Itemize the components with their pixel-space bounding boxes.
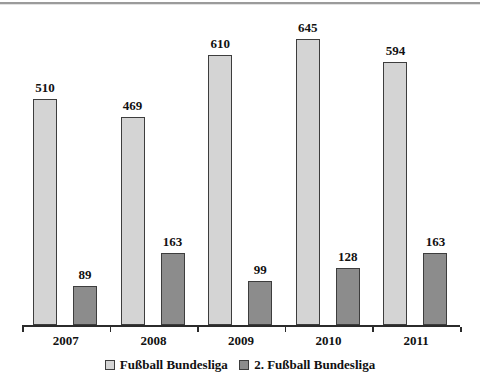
value-label: 594 [386,44,406,58]
value-label: 163 [163,235,183,249]
bar-bundesliga-2009 [208,55,232,325]
bar-chart: 5108946916361099645128594163 20072008200… [0,0,480,380]
value-label: 645 [298,21,318,35]
x-axis-label: 2008 [140,333,166,349]
x-axis-tick [197,327,199,332]
x-axis-label: 2007 [53,333,79,349]
bar-bundesliga-2011 [383,62,407,325]
x-axis-tick [285,327,287,332]
x-axis-tick [372,327,374,332]
legend: Fußball Bundesliga 2. Fußball Bundesliga [0,356,480,373]
value-label: 128 [338,250,358,264]
legend-label-bundesliga: Fußball Bundesliga [120,357,228,373]
value-label: 89 [79,268,92,282]
x-axis-tick [110,327,112,332]
legend-label-2-bundesliga: 2. Fußball Bundesliga [254,357,375,373]
bar-bundesliga-2007 [33,99,57,325]
legend-swatch-2-bundesliga-icon [239,360,249,370]
bar-2-bundesliga-2010 [336,268,360,325]
value-label: 469 [123,99,143,113]
x-axis-label: 2010 [316,333,342,349]
x-axis-tick [460,327,462,332]
bar-bundesliga-2008 [121,117,145,325]
bar-2-bundesliga-2011 [423,253,447,325]
legend-item-2-bundesliga: 2. Fußball Bundesliga [239,357,375,373]
bar-2-bundesliga-2007 [73,286,97,325]
bar-2-bundesliga-2008 [161,253,185,325]
value-label: 163 [426,235,446,249]
value-label: 610 [210,37,230,51]
bar-2-bundesliga-2009 [248,281,272,325]
page: 5108946916361099645128594163 20072008200… [0,0,480,380]
value-label: 510 [35,81,55,95]
x-axis-tick [22,327,24,332]
legend-swatch-bundesliga-icon [105,360,115,370]
x-axis-line [22,325,460,327]
x-axis-label: 2011 [404,333,429,349]
value-label: 99 [254,263,267,277]
bar-bundesliga-2010 [296,39,320,325]
legend-item-bundesliga: Fußball Bundesliga [105,357,228,373]
x-axis-label: 2009 [228,333,254,349]
